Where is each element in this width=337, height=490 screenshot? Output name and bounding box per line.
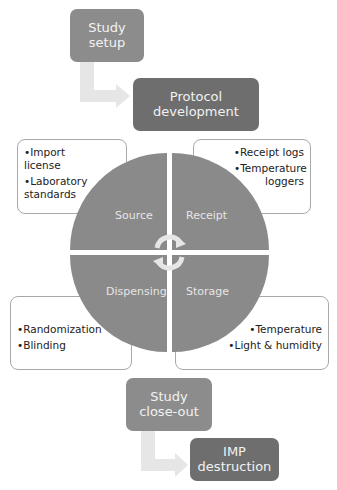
box-text: Study	[88, 21, 126, 36]
box-text: development	[153, 105, 239, 120]
box-text: destruction	[198, 460, 272, 475]
cycle-circle	[70, 153, 269, 352]
imp-destruction-box: IMP destruction	[190, 438, 279, 481]
box-text: Protocol	[153, 90, 239, 105]
quadrant-label-storage: Storage	[186, 285, 229, 298]
study-setup-box: Study setup	[70, 9, 144, 62]
box-text: Study	[139, 390, 199, 405]
elbow-arrow-bottom-icon	[141, 431, 188, 477]
quadrant-label-receipt: Receipt	[186, 209, 227, 222]
box-text: setup	[88, 36, 126, 51]
elbow-arrow-top-icon	[80, 62, 130, 108]
study-closeout-box: Study close-out	[126, 378, 212, 431]
quadrant-label-source: Source	[115, 209, 153, 222]
box-text: close-out	[139, 405, 199, 420]
protocol-development-box: Protocol development	[133, 78, 259, 131]
quadrant-label-dispensing: Dispensing	[106, 285, 167, 298]
box-text: IMP	[198, 445, 272, 460]
